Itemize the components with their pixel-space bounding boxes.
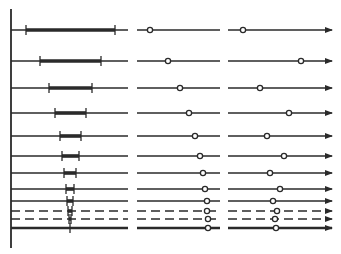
diagram-row <box>11 108 332 118</box>
middle-open-circle-marker <box>200 170 205 175</box>
middle-open-circle-marker <box>204 208 209 213</box>
diagram-row <box>11 184 332 194</box>
middle-open-circle-marker <box>204 198 209 203</box>
diagram-row <box>11 223 332 233</box>
right-open-circle-marker <box>257 85 262 90</box>
right-open-circle-marker <box>286 110 291 115</box>
middle-open-circle-marker <box>205 216 210 221</box>
middle-open-circle-marker <box>177 85 182 90</box>
middle-open-circle-marker <box>192 133 197 138</box>
diagram-row <box>11 168 332 178</box>
diagram-row <box>11 214 332 224</box>
diagram-row <box>11 206 332 216</box>
middle-open-circle-marker <box>147 27 152 32</box>
right-open-circle-marker <box>298 58 303 63</box>
middle-open-circle-marker <box>197 153 202 158</box>
diagram-row <box>11 131 332 141</box>
middle-open-circle-marker <box>202 186 207 191</box>
diagram-row <box>11 83 332 93</box>
diagram-row <box>11 196 332 206</box>
middle-open-circle-marker <box>186 110 191 115</box>
diagram-row <box>11 151 332 161</box>
right-open-circle-marker <box>267 170 272 175</box>
right-open-circle-marker <box>273 225 278 230</box>
diagram-row <box>11 25 332 35</box>
right-open-circle-marker <box>270 198 275 203</box>
right-open-circle-marker <box>274 208 279 213</box>
diagram-row <box>11 56 332 66</box>
convergence-diagram <box>0 0 341 254</box>
middle-open-circle-marker <box>165 58 170 63</box>
rows-group <box>11 25 332 233</box>
right-open-circle-marker <box>240 27 245 32</box>
middle-open-circle-marker <box>205 225 210 230</box>
right-open-circle-marker <box>277 186 282 191</box>
right-open-circle-marker <box>264 133 269 138</box>
right-open-circle-marker <box>272 216 277 221</box>
right-open-circle-marker <box>281 153 286 158</box>
